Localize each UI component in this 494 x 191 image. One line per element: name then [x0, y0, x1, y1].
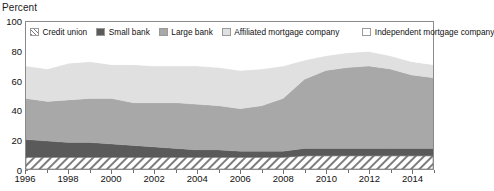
y-axis-tick-label: 20 [0, 135, 22, 146]
x-axis-tick-label: 2010 [316, 173, 337, 184]
stacked-area-series [26, 22, 433, 169]
x-axis-tick-label: 2006 [230, 173, 251, 184]
chart-legend: Credit unionSmall bankLarge bankAffiliat… [30, 27, 494, 37]
legend-item: Large bank [159, 27, 222, 37]
plot-inner [26, 22, 433, 169]
legend-label: Credit union [43, 27, 88, 37]
plot-area [25, 21, 434, 170]
legend-label: Independent mortgage company [375, 27, 494, 37]
x-axis-tick-mark [47, 170, 48, 173]
x-axis-tick-mark [262, 170, 263, 173]
x-axis-tick-label: 2002 [144, 173, 165, 184]
legend-swatch-icon [362, 28, 371, 36]
y-axis-tick-label: 100 [0, 16, 22, 27]
x-axis-tick-mark [348, 170, 349, 173]
legend-item: Affiliated mortgage company [222, 27, 349, 37]
x-axis-tick-label: 2014 [402, 173, 423, 184]
legend-item: Credit union [30, 27, 96, 37]
legend-item: Independent mortgage company [362, 27, 494, 37]
x-axis-tick-label: 2000 [101, 173, 122, 184]
x-axis-tick-mark [176, 170, 177, 173]
x-axis-tick-label: 1998 [57, 173, 78, 184]
legend-swatch-icon [96, 28, 105, 36]
x-axis-tick-label: 2008 [273, 173, 294, 184]
x-axis-tick-mark [133, 170, 134, 173]
y-axis-title: Percent [2, 2, 37, 13]
legend-label: Small bank [109, 27, 150, 37]
x-axis-tick-mark [434, 170, 435, 173]
x-axis-tick-mark [219, 170, 220, 173]
x-axis-tick-mark [391, 170, 392, 173]
y-axis-tick-label: 40 [0, 105, 22, 116]
x-axis-tick-mark [90, 170, 91, 173]
legend-swatch-icon [222, 28, 231, 36]
legend-swatch-icon [30, 28, 39, 36]
legend-swatch-icon [159, 28, 168, 36]
y-axis-tick-label: 60 [0, 75, 22, 86]
legend-label: Large bank [171, 27, 213, 37]
x-axis-tick-label: 2012 [359, 173, 380, 184]
x-axis-tick-mark [305, 170, 306, 173]
legend-item: Small bank [96, 27, 159, 37]
x-axis-tick-label: 2004 [187, 173, 208, 184]
x-axis-tick-label: 1996 [14, 173, 35, 184]
legend-label: Affiliated mortgage company [234, 27, 339, 37]
y-axis-tick-label: 80 [0, 45, 22, 56]
area-band-credit-union [26, 156, 433, 169]
